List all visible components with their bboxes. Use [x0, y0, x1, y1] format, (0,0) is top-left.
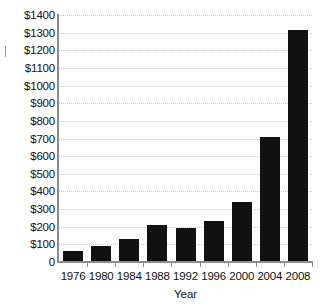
bar — [119, 239, 139, 262]
y-axis-tick-label: $600 — [30, 150, 55, 162]
x-axis-tick — [284, 262, 285, 267]
x-axis-tick — [312, 262, 313, 267]
x-axis-tick — [87, 262, 88, 267]
bar — [232, 202, 252, 262]
bar — [260, 137, 280, 262]
x-axis-tick-label: 2008 — [278, 270, 318, 282]
x-axis-tick — [171, 262, 172, 267]
y-axis-tick-label: $100 — [30, 238, 55, 250]
gridline — [59, 103, 312, 104]
y-axis-tick-label: $1400 — [24, 9, 55, 21]
bar-chart-figure: 0$100$200$300$400$500$600$700$800$900$10… — [0, 0, 335, 308]
y-axis-tick-label: $1300 — [24, 27, 55, 39]
y-axis-tick-label: $1000 — [24, 80, 55, 92]
y-axis-tick-label: $800 — [30, 115, 55, 127]
y-axis-tick-label: $700 — [30, 133, 55, 145]
y-axis-tick-label: $300 — [30, 203, 55, 215]
bar — [91, 246, 111, 262]
y-axis-tick-label: $200 — [30, 221, 55, 233]
bar — [147, 225, 167, 262]
y-axis-tick-label: $400 — [30, 185, 55, 197]
y-axis-tick-label: $1200 — [24, 44, 55, 56]
y-axis-tick-label: 0 — [49, 256, 55, 268]
x-axis-tick — [228, 262, 229, 267]
gridline — [59, 121, 312, 122]
x-axis-line — [57, 261, 313, 263]
x-axis-tick — [256, 262, 257, 267]
gridline — [59, 68, 312, 69]
bar — [288, 30, 308, 262]
x-axis-tick — [115, 262, 116, 267]
y-axis-tick-label: $1100 — [25, 62, 55, 74]
x-axis-title: Year — [59, 288, 312, 300]
x-axis-tick — [200, 262, 201, 267]
y-axis-tick-labels: 0$100$200$300$400$500$600$700$800$900$10… — [0, 15, 55, 262]
bar — [204, 221, 224, 262]
gridline — [59, 86, 312, 87]
gridline — [59, 33, 312, 34]
gridline — [59, 50, 312, 51]
x-axis-tick — [143, 262, 144, 267]
plot-area — [59, 15, 312, 262]
gridline — [59, 15, 312, 16]
y-axis-tick-label: $900 — [30, 97, 55, 109]
bar — [176, 228, 196, 262]
y-axis-tick-label: $500 — [30, 168, 55, 180]
